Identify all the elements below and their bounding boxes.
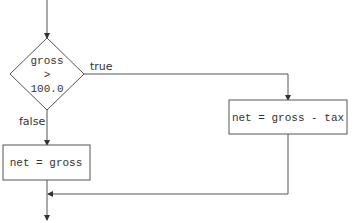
true-label: true (90, 60, 113, 73)
decision-text-line2: > (44, 69, 51, 81)
flowchart: gross > 100.0 true net = gross - tax fal… (0, 0, 354, 223)
true-process-text: net = gross - tax (232, 112, 345, 124)
decision-text-line3: 100.0 (30, 83, 63, 95)
false-process-text: net = gross (10, 157, 83, 169)
true-branch-line (84, 74, 288, 100)
false-label: false (19, 115, 45, 128)
decision-text-line1: gross (30, 55, 63, 67)
